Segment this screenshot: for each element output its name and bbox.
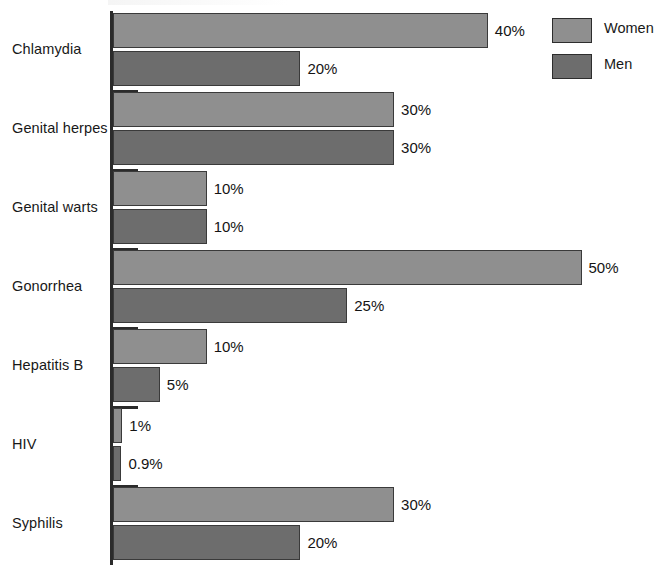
bar-value-women-gonorrhea: 50%: [589, 259, 619, 276]
category-label-genital-warts: Genital warts: [12, 199, 108, 215]
category-label-syphilis: Syphilis: [12, 515, 108, 531]
category-label-chlamydia: Chlamydia: [12, 41, 108, 57]
bar-value-women-hepatitis-b: 10%: [214, 338, 244, 355]
bar-value-women-genital-warts: 10%: [214, 180, 244, 197]
bar-value-men-gonorrhea: 25%: [354, 297, 384, 314]
bar-men-genital-herpes: [113, 130, 394, 165]
bar-women-syphilis: [113, 487, 394, 522]
bar-women-gonorrhea: [113, 250, 582, 285]
bar-men-genital-warts: [113, 209, 207, 244]
bar-men-chlamydia: [113, 51, 300, 86]
category-label-gonorrhea: Gonorrhea: [12, 278, 108, 294]
category-label-hepatitis-b: Hepatitis B: [12, 357, 108, 373]
bar-women-genital-herpes: [113, 92, 394, 127]
bar-men-hepatitis-b: [113, 367, 160, 402]
bar-value-men-chlamydia: 20%: [307, 60, 337, 77]
bar-men-gonorrhea: [113, 288, 347, 323]
bar-value-men-hepatitis-b: 5%: [167, 376, 189, 393]
legend-item-men: Men: [552, 52, 662, 88]
legend-item-women: Women: [552, 16, 662, 52]
bar-women-genital-warts: [113, 171, 207, 206]
bar-value-men-genital-herpes: 30%: [401, 139, 431, 156]
bar-women-hiv: [113, 408, 122, 443]
bar-men-syphilis: [113, 525, 300, 560]
cropped-title-remnant: [108, 0, 288, 5]
bar-value-women-syphilis: 30%: [401, 496, 431, 513]
category-label-hiv: HIV: [12, 436, 108, 452]
bar-value-men-hiv: 0.9%: [128, 455, 162, 472]
legend-label-women: Women: [604, 20, 654, 36]
legend-swatch-men-icon: [552, 54, 592, 79]
chart-legend: Women Men: [552, 16, 662, 88]
bar-women-chlamydia: [113, 13, 488, 48]
legend-swatch-women-icon: [552, 18, 592, 43]
category-label-genital-herpes: Genital herpes: [12, 120, 108, 136]
bar-value-men-genital-warts: 10%: [214, 218, 244, 235]
bar-value-women-chlamydia: 40%: [495, 22, 525, 39]
bar-women-hepatitis-b: [113, 329, 207, 364]
bar-chart: Chlamydia40%20%Genital herpes30%30%Genit…: [0, 0, 662, 580]
legend-label-men: Men: [604, 56, 632, 72]
bar-value-women-genital-herpes: 30%: [401, 101, 431, 118]
bar-men-hiv: [113, 446, 121, 481]
bar-value-men-syphilis: 20%: [307, 534, 337, 551]
bar-value-women-hiv: 1%: [129, 417, 151, 434]
